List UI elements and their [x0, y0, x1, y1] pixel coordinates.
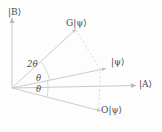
vector-o-psi — [12, 88, 101, 111]
vector-g-psi — [12, 29, 76, 88]
vector-label-o-psi: O|ψ⟩ — [101, 106, 122, 115]
vector-label-g-psi: G|ψ⟩ — [66, 19, 87, 28]
vector-label-o-psi-text: O|ψ⟩ — [101, 105, 122, 115]
arc-theta-lower — [47, 88, 48, 96]
axis-label-a: |A⟩ — [139, 80, 152, 89]
arc-two-theta — [41, 62, 50, 81]
vector-label-psi-text: |ψ⟩ — [111, 57, 125, 67]
arc-theta-upper — [48, 81, 49, 88]
axis-label-a-text: |A⟩ — [139, 79, 152, 89]
vector-label-psi: |ψ⟩ — [111, 58, 125, 67]
axis-label-b: |B⟩ — [8, 8, 21, 17]
angle-label-theta-lower: θ — [36, 85, 41, 94]
angle-label-theta-upper: θ — [36, 74, 41, 83]
axis-a-line — [12, 86, 136, 89]
grover-rotation-figure: |B⟩ G|ψ⟩ |ψ⟩ |A⟩ O|ψ⟩ 2θ θ θ — [0, 0, 162, 132]
vector-label-g-psi-text: G|ψ⟩ — [66, 18, 87, 28]
vector-psi — [12, 69, 106, 89]
axis-label-b-text: |B⟩ — [8, 7, 21, 17]
angle-label-two-theta: 2θ — [27, 60, 38, 69]
